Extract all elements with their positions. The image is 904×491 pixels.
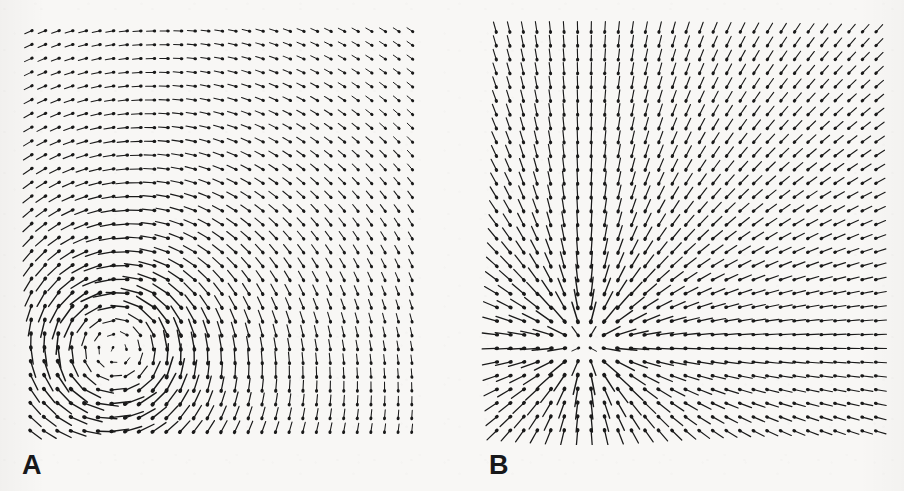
vortex-vector-field [0,0,452,445]
source-panel: B [452,0,904,491]
source-vector-field [452,0,904,445]
panel-label-b: B [489,452,509,479]
vortex-panel: A [0,0,452,491]
panel-label-a: A [22,452,42,479]
figure-root: A B [0,0,904,491]
